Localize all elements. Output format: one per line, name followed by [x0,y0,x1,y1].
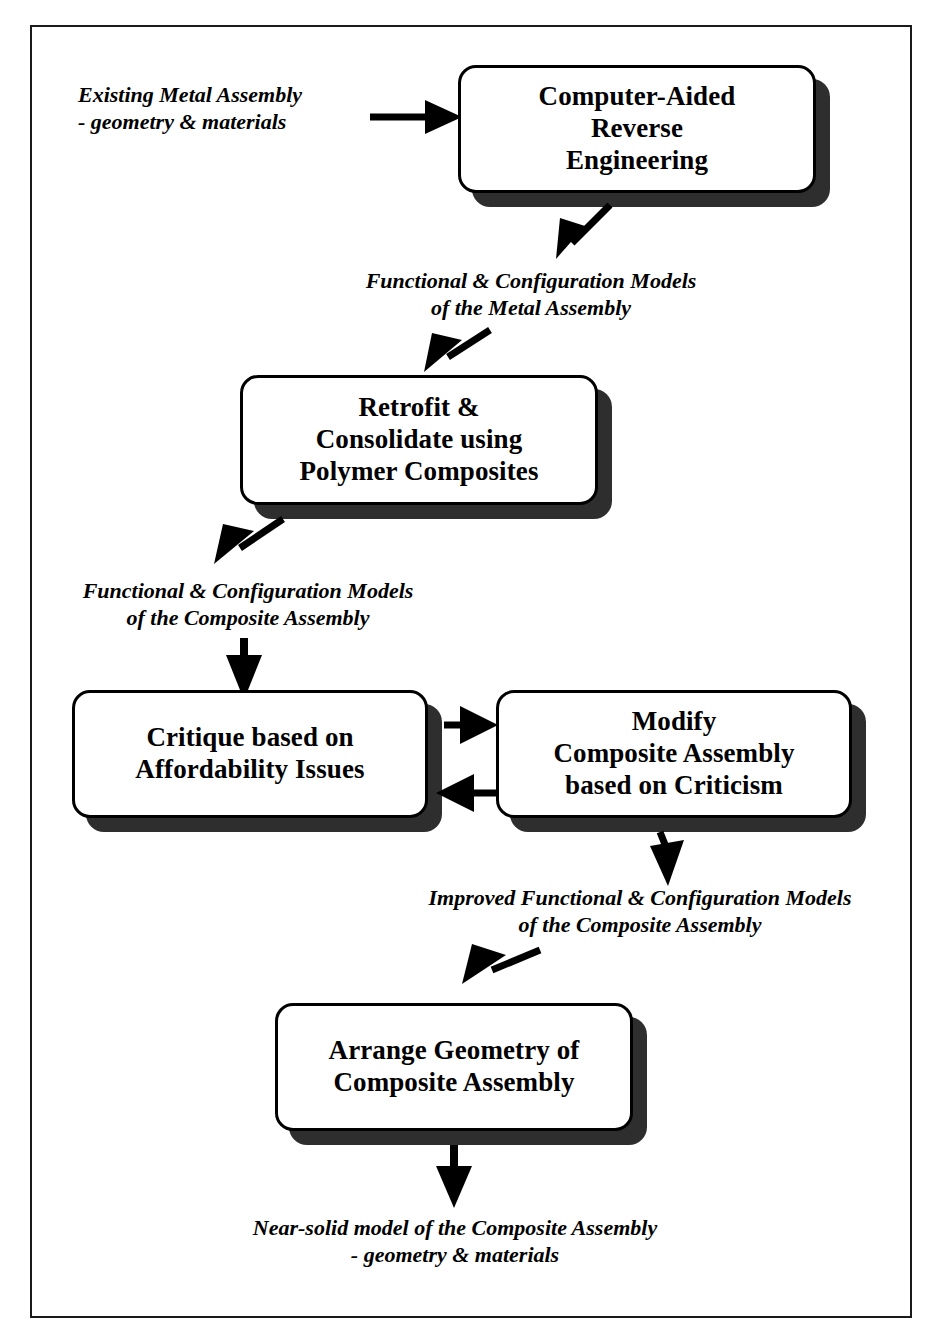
note-line: Existing Metal Assembly [78,82,408,109]
node-label-line: Composite Assembly [553,738,794,770]
node-label-line: based on Criticism [565,770,783,802]
note-line: Functional & Configuration Models [58,578,438,605]
note-metal-assembly-models: Functional & Configuration Models of the… [316,268,746,322]
note-line: Functional & Configuration Models [316,268,746,295]
node-retrofit-consolidate[interactable]: Retrofit & Consolidate using Polymer Com… [240,375,598,505]
note-line: Improved Functional & Configuration Mode… [390,885,890,912]
note-line: of the Composite Assembly [58,605,438,632]
note-line: Near-solid model of the Composite Assemb… [150,1215,760,1242]
note-input-metal-assembly: Existing Metal Assembly - geometry & mat… [78,82,408,136]
node-label-line: Retrofit & [358,392,479,424]
node-computer-aided-reverse-engineering[interactable]: Computer-Aided Reverse Engineering [458,65,816,193]
note-near-solid-model-output: Near-solid model of the Composite Assemb… [150,1215,760,1269]
node-modify-composite-assembly[interactable]: Modify Composite Assembly based on Criti… [496,690,852,818]
node-label-line: Engineering [566,145,708,177]
note-improved-composite-models: Improved Functional & Configuration Mode… [390,885,890,939]
note-line: - geometry & materials [78,109,408,136]
note-composite-assembly-models: Functional & Configuration Models of the… [58,578,438,632]
node-label-line: Affordability Issues [135,754,364,786]
node-critique-affordability[interactable]: Critique based on Affordability Issues [72,690,428,818]
node-label-line: Reverse [591,113,683,145]
node-label-line: Consolidate using [316,424,523,456]
note-line: of the Metal Assembly [316,295,746,322]
note-line: of the Composite Assembly [390,912,890,939]
note-line: - geometry & materials [150,1242,760,1269]
flowchart-canvas: Computer-Aided Reverse Engineering Retro… [0,0,948,1339]
node-label-line: Composite Assembly [333,1067,574,1099]
node-label-line: Polymer Composites [299,456,538,488]
node-label-line: Arrange Geometry of [329,1035,580,1067]
node-label-line: Critique based on [146,722,353,754]
node-label-line: Modify [632,706,717,738]
node-arrange-geometry[interactable]: Arrange Geometry of Composite Assembly [275,1003,633,1131]
node-label-line: Computer-Aided [539,81,736,113]
